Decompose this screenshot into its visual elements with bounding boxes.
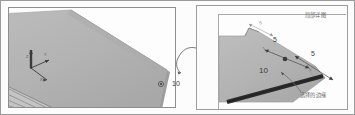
detail-geometry (197, 6, 348, 110)
technical-illustration-figure: Z Y X 10 (0, 0, 355, 115)
overview-geometry (9, 8, 176, 108)
detail-panel (196, 5, 348, 110)
detail-chamfer-upper-node (283, 57, 288, 62)
overview-panel: Z Y X (8, 7, 176, 108)
